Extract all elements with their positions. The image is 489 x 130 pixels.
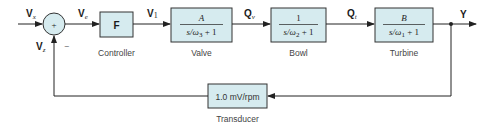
- signal-ve: Ve: [78, 8, 88, 21]
- plus-sign: +: [51, 20, 56, 30]
- transducer-caption: Transducer: [216, 114, 259, 124]
- controller-label: F: [113, 20, 119, 31]
- controller-block: F: [100, 12, 133, 37]
- bowl-numerator: 1: [296, 13, 301, 23]
- signal-qt: Qt: [347, 8, 358, 21]
- signal-qv: Qv: [244, 8, 256, 21]
- transducer-label: 1.0 mV/rpm: [216, 92, 260, 102]
- valve-block: A s/ω3 + 1: [171, 8, 232, 42]
- signal-y: Y: [460, 9, 467, 20]
- valve-caption: Valve: [191, 48, 212, 58]
- valve-numerator: A: [198, 13, 205, 23]
- signal-vx: Vx: [26, 8, 37, 21]
- turbine-numerator: B: [401, 13, 407, 23]
- signal-vz: Vz: [36, 41, 46, 54]
- turbine-block: B s/ω1 + 1: [375, 8, 433, 42]
- turbine-caption: Turbine: [390, 48, 419, 58]
- signal-v1: V1: [147, 8, 158, 20]
- summing-junction: +: [43, 13, 65, 35]
- minus-sign: −: [64, 41, 69, 51]
- bowl-caption: Bowl: [289, 48, 308, 58]
- block-diagram: Vx + − Ve F Controller V1 A s/ω3 + 1 Val…: [0, 0, 489, 130]
- controller-caption: Controller: [98, 48, 135, 58]
- feedback-wire-left: [54, 36, 208, 96]
- bowl-block: 1 s/ω2 + 1: [271, 8, 326, 42]
- transducer-block: 1.0 mV/rpm: [208, 84, 267, 108]
